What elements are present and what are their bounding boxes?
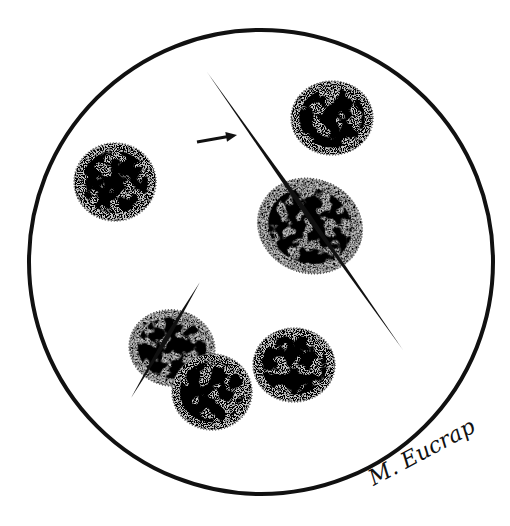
microscope-field-drawing: M. Eucrap	[0, 0, 510, 526]
cell-left	[74, 143, 156, 221]
cell-lower-left-b	[172, 354, 252, 430]
cell-center-irregular	[244, 164, 376, 289]
cell-lower-center	[253, 328, 335, 402]
cell-top-right	[291, 81, 373, 155]
cells	[74, 81, 376, 430]
illustration: M. Eucrap	[0, 0, 510, 526]
pointer-arrow-icon	[197, 132, 237, 142]
microscope-field-circle	[29, 30, 493, 494]
artist-signature: M. Eucrap	[363, 414, 479, 491]
